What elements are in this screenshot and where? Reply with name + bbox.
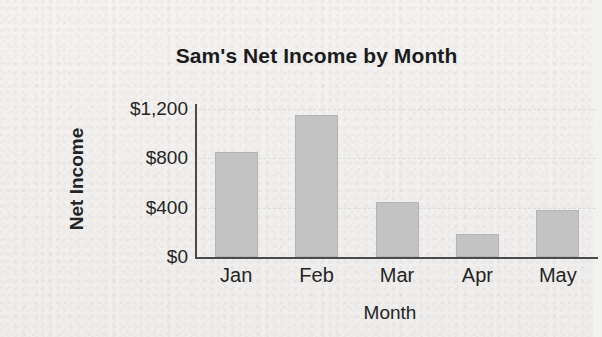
bar-chart-figure: Sam's Net Income by Month Net Income $0$… xyxy=(40,16,553,321)
y-axis-line xyxy=(195,104,197,259)
x-tick-label-feb: Feb xyxy=(299,264,333,287)
bar-mar xyxy=(376,202,419,258)
x-tick-label-may: May xyxy=(539,264,577,287)
bar-jan xyxy=(215,152,258,257)
x-axis-line xyxy=(195,257,598,259)
y-tick-label-1200: $1,200 xyxy=(78,98,188,120)
x-axis-title: Month xyxy=(190,302,590,324)
x-tick-label-apr: Apr xyxy=(462,264,493,287)
gridline-800 xyxy=(198,158,598,159)
bar-feb xyxy=(295,115,338,257)
plot-area: $0$400$800$1,200 JanFebMarAprMay xyxy=(40,16,602,337)
y-tick-label-400: $400 xyxy=(78,197,188,219)
y-tick-label-800: $800 xyxy=(78,147,188,169)
gridline-1200 xyxy=(198,109,598,110)
bar-may xyxy=(536,210,579,257)
x-tick-label-mar: Mar xyxy=(380,264,414,287)
bar-apr xyxy=(456,234,499,257)
y-tick-label-0: $0 xyxy=(78,246,188,268)
x-tick-label-jan: Jan xyxy=(220,264,252,287)
